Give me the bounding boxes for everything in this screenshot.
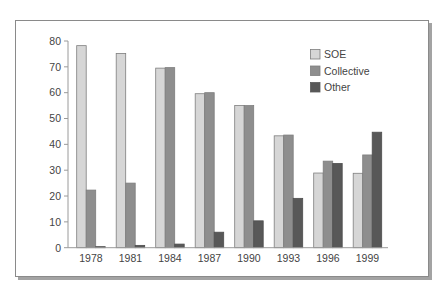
legend-swatch-collective [311, 66, 321, 76]
x-tick-label: 1993 [277, 252, 301, 264]
bar-collective-1987 [205, 93, 215, 248]
bar-soe-1999 [353, 173, 363, 247]
y-tick-label: 70 [49, 61, 61, 73]
bar-other-1990 [254, 221, 264, 248]
legend-swatch-soe [311, 50, 321, 60]
bar-soe-1978 [77, 46, 87, 248]
y-tick-label: 80 [49, 35, 61, 47]
bar-soe-1987 [195, 94, 205, 248]
bar-soe-1981 [116, 53, 126, 247]
x-tick-label: 1984 [158, 252, 182, 264]
bar-collective-1978 [86, 190, 96, 248]
legend-item-collective: Collective [311, 65, 370, 77]
legend-swatch-other [311, 83, 321, 93]
bar-other-1984 [175, 244, 185, 248]
bar-collective-1999 [363, 155, 373, 248]
y-tick-label: 40 [49, 138, 61, 150]
legend-item-other: Other [311, 81, 351, 93]
chart: 01020304050607080 1978198119841987199019… [0, 0, 447, 296]
bar-other-1999 [372, 132, 382, 247]
bar-other-1993 [293, 198, 303, 247]
bar-collective-1984 [165, 68, 175, 248]
x-tick-label: 1990 [237, 252, 261, 264]
bar-collective-1981 [126, 183, 136, 248]
bar-soe-1993 [274, 136, 284, 248]
bar-soe-1996 [314, 173, 324, 248]
x-tick-label: 1981 [119, 252, 143, 264]
x-tick-label: 1999 [356, 252, 380, 264]
y-tick-label: 60 [49, 86, 61, 98]
x-tick-label: 1978 [79, 252, 103, 264]
x-tick-label: 1987 [198, 252, 222, 264]
bar-soe-1984 [156, 68, 166, 248]
bar-other-1987 [214, 232, 224, 248]
y-tick-label: 0 [55, 242, 61, 254]
legend-label-soe: SOE [324, 48, 346, 60]
bar-collective-1993 [284, 135, 294, 248]
bar-other-1996 [333, 163, 343, 247]
bar-soe-1990 [235, 106, 245, 248]
legend-label-other: Other [324, 81, 351, 93]
y-tick-label: 50 [49, 112, 61, 124]
legend-label-collective: Collective [324, 65, 370, 77]
bar-collective-1996 [323, 161, 333, 248]
y-tick-label: 30 [49, 164, 61, 176]
y-tick-label: 10 [49, 216, 61, 228]
bar-group-1996 [314, 161, 343, 248]
bar-collective-1990 [244, 106, 254, 248]
legend-item-soe: SOE [311, 48, 347, 60]
y-tick-label: 20 [49, 190, 61, 202]
x-tick-label: 1996 [316, 252, 340, 264]
